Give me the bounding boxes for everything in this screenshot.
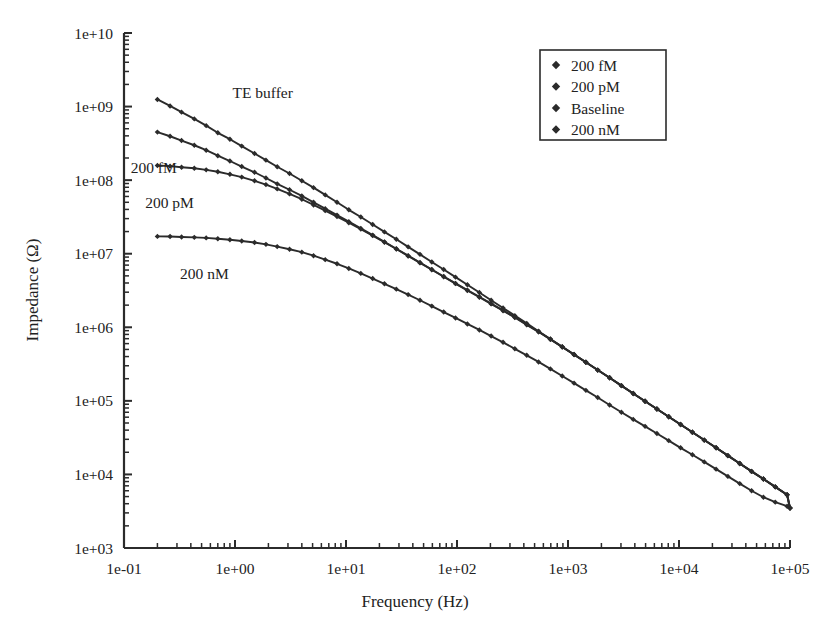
y-tick-label: 1e+05	[74, 392, 113, 409]
impedance-spectroscopy-chart: 1e+031e+041e+051e+061e+071e+081e+091e+10…	[0, 0, 830, 629]
x-tick-label: 1e+05	[771, 560, 810, 577]
y-tick-label: 1e+09	[74, 98, 113, 115]
x-tick-label: 1e+02	[438, 560, 477, 577]
y-tick-label: 1e+06	[74, 319, 113, 336]
x-tick-label: 1e+03	[549, 560, 588, 577]
y-axis-tick-labels: 1e+031e+041e+051e+061e+071e+081e+091e+10	[74, 25, 113, 557]
legend-item-label: Baseline	[571, 100, 624, 117]
y-axis-title: Impedance (Ω)	[23, 239, 42, 342]
x-axis-title: Frequency (Hz)	[361, 592, 468, 611]
curve-annotation: TE buffer	[233, 84, 294, 101]
y-tick-label: 1e+07	[74, 245, 113, 262]
chart-legend: 200 fM200 pMBaseline200 nM	[540, 50, 666, 140]
curve-annotation: 200 pM	[145, 194, 194, 211]
y-tick-label: 1e+03	[74, 540, 113, 557]
series-baseline	[155, 97, 793, 511]
series-200-fm	[155, 129, 793, 510]
y-tick-label: 1e+08	[74, 172, 113, 189]
x-tick-label: 1e+01	[327, 560, 366, 577]
x-tick-label: 1e-01	[106, 560, 141, 577]
chart-canvas: 1e+031e+041e+051e+061e+071e+081e+091e+10…	[0, 0, 830, 629]
data-series-group	[155, 97, 793, 511]
legend-item-label: 200 pM	[571, 78, 620, 95]
curve-annotation: 200 nM	[180, 265, 229, 282]
x-axis-tick-labels: 1e-011e+001e+011e+021e+031e+041e+05	[106, 560, 809, 577]
legend-item-label: 200 fM	[571, 57, 617, 74]
y-tick-label: 1e+04	[74, 466, 113, 483]
series-200-nm	[155, 234, 793, 511]
x-tick-label: 1e+00	[216, 560, 255, 577]
curve-annotation: 200 fM	[131, 159, 177, 176]
legend-item-label: 200 nM	[571, 121, 620, 138]
curve-annotations: TE buffer200 fM200 pM200 nM	[131, 84, 294, 281]
y-tick-label: 1e+10	[74, 25, 113, 42]
x-tick-label: 1e+04	[660, 560, 699, 577]
